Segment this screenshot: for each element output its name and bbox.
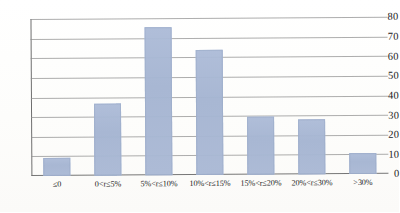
x-tick-label: 10%<r≤15% [184,179,235,188]
bar-slot [285,17,337,174]
x-tick-label: 20%<r≤30% [286,178,337,187]
bar[interactable] [349,152,376,174]
x-axis-labels: ≤0 0<r≤5% 5%<r≤10% 10%<r≤15% 15%<r≤20% 2… [31,178,388,189]
bar[interactable] [196,50,224,175]
bar[interactable] [94,103,121,175]
chart-scan-group: 80 70 60 50 40 30 20 10 0 [0,0,400,213]
x-tick-label: 5%<r≤10% [133,179,184,188]
bar[interactable] [298,120,325,175]
x-tick-label: >30% [337,178,388,187]
bar-slot [132,18,184,175]
bar-slot [30,19,82,176]
x-tick-label: 0<r≤5% [82,179,133,188]
bar[interactable] [145,27,173,175]
bar[interactable] [247,116,274,175]
plot-area [30,17,388,176]
bar-group [30,17,388,176]
bar-slot [234,17,286,174]
bar-slot [336,17,388,174]
bar[interactable] [43,158,70,176]
x-tick-label: 15%<r≤20% [235,178,286,187]
x-tick-label: ≤0 [31,180,82,189]
bar-slot [183,18,235,175]
bar-slot [81,18,133,175]
